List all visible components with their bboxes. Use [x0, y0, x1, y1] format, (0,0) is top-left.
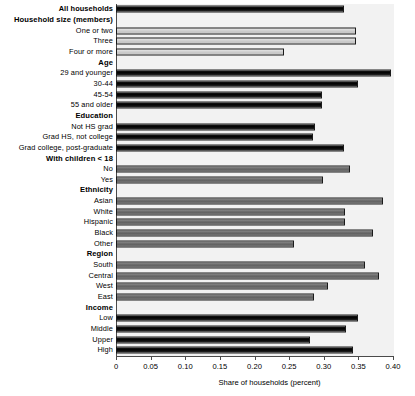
row-label: 55 and older	[0, 101, 113, 109]
chart-bar-row: Yes	[0, 175, 415, 186]
chart-bar	[116, 102, 322, 109]
x-axis-tick-label: 0.40	[386, 362, 401, 371]
chart-group-header: Ethnicity	[0, 185, 415, 196]
row-label: Central	[0, 272, 113, 280]
chart-rows: All householdsHousehold size (members)On…	[0, 4, 415, 356]
x-axis-tick-label: 0.35	[351, 362, 366, 371]
chart-group-header: Education	[0, 111, 415, 122]
row-label: Hispanic	[0, 218, 113, 226]
x-axis-title: Share of households (percent)	[0, 378, 415, 387]
chart-bar	[116, 315, 358, 322]
chart-bar-row: Black	[0, 228, 415, 239]
chart-bar	[116, 48, 284, 55]
chart-bar	[116, 80, 358, 87]
row-label: Asian	[0, 197, 113, 205]
row-label: Not HS grad	[0, 123, 113, 131]
bar-chart: All householdsHousehold size (members)On…	[0, 0, 415, 396]
row-label: High	[0, 346, 113, 354]
chart-bar	[116, 134, 313, 141]
x-axis-tick	[324, 356, 325, 360]
chart-bar-row: Other	[0, 238, 415, 249]
row-label: Grad HS, not college	[0, 133, 113, 141]
x-axis-tick-label: 0.15	[212, 362, 227, 371]
row-label: Black	[0, 229, 113, 237]
chart-bar	[116, 219, 345, 226]
chart-bar	[116, 123, 315, 130]
chart-bar	[116, 166, 350, 173]
x-axis-tick-label: 0.10	[178, 362, 193, 371]
row-label: Low	[0, 314, 113, 322]
chart-bar-row: 45-54	[0, 89, 415, 100]
x-axis-tick	[220, 356, 221, 360]
chart-bar	[116, 208, 345, 215]
chart-bar-row: Central	[0, 270, 415, 281]
x-axis-tick-label: 0.30	[316, 362, 331, 371]
chart-bar	[116, 294, 314, 301]
chart-bar	[116, 38, 356, 45]
chart-bar-row: Grad college, post-graduate	[0, 143, 415, 154]
row-label: Upper	[0, 336, 113, 344]
x-axis-tick-label: 0.20	[247, 362, 262, 371]
chart-bar-row: South	[0, 260, 415, 271]
chart-group-header: Region	[0, 249, 415, 260]
row-label: East	[0, 293, 113, 301]
row-label: White	[0, 208, 113, 216]
row-label: Middle	[0, 325, 113, 333]
chart-bar-row: Grad HS, not college	[0, 132, 415, 143]
chart-bar-row: Not HS grad	[0, 121, 415, 132]
chart-bar	[116, 230, 373, 237]
chart-bar-row: Hispanic	[0, 217, 415, 228]
chart-bar-row: All households	[0, 4, 415, 15]
x-axis-tick	[289, 356, 290, 360]
chart-bar	[116, 272, 379, 279]
chart-bar-row: West	[0, 281, 415, 292]
row-label: 45-54	[0, 91, 113, 99]
chart-bar	[116, 326, 346, 333]
chart-bar-row: No	[0, 164, 415, 175]
chart-bar-row: White	[0, 206, 415, 217]
chart-bar	[116, 176, 323, 183]
chart-bar-row: Asian	[0, 196, 415, 207]
chart-bar-row: 30-44	[0, 79, 415, 90]
x-axis-tick-label: 0.25	[282, 362, 297, 371]
chart-bar-row: East	[0, 292, 415, 303]
row-label: Three	[0, 37, 113, 45]
row-label: One or two	[0, 27, 113, 35]
chart-group-header: Household size (members)	[0, 15, 415, 26]
row-label: With children < 18	[0, 155, 113, 163]
chart-bar	[116, 144, 344, 151]
chart-bar	[116, 198, 383, 205]
x-axis-tick	[393, 356, 394, 360]
chart-bar	[116, 262, 365, 269]
chart-bar-row: Upper	[0, 334, 415, 345]
chart-bar	[116, 27, 356, 34]
chart-group-header: Age	[0, 57, 415, 68]
row-label: Grad college, post-graduate	[0, 144, 113, 152]
row-label: Yes	[0, 176, 113, 184]
row-label: 29 and younger	[0, 69, 113, 77]
chart-bar	[116, 283, 328, 290]
chart-bar-row: 29 and younger	[0, 68, 415, 79]
row-label: Age	[0, 59, 113, 67]
x-axis-tick	[185, 356, 186, 360]
chart-bar-row: Three	[0, 36, 415, 47]
x-axis-tick-label: 0	[114, 362, 118, 371]
chart-bar	[116, 70, 391, 77]
x-axis-tick	[255, 356, 256, 360]
chart-bar-row: Low	[0, 313, 415, 324]
row-label: 30-44	[0, 80, 113, 88]
row-label: Other	[0, 240, 113, 248]
chart-bar	[116, 240, 294, 247]
x-axis-tick	[151, 356, 152, 360]
chart-bar	[116, 91, 322, 98]
row-label: Four or more	[0, 48, 113, 56]
row-label: Region	[0, 250, 113, 258]
x-axis-tick	[116, 356, 117, 360]
chart-group-header: Income	[0, 302, 415, 313]
chart-bar-row: One or two	[0, 25, 415, 36]
row-label: Ethnicity	[0, 186, 113, 194]
row-label: West	[0, 282, 113, 290]
chart-bar-row: High	[0, 345, 415, 356]
row-label: Education	[0, 112, 113, 120]
row-label: South	[0, 261, 113, 269]
